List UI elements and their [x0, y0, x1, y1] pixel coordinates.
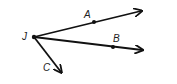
- label-a: A: [83, 9, 91, 20]
- rays-diagram: J A B C: [0, 0, 177, 84]
- point-a: [92, 20, 96, 24]
- vertex-point-j: [32, 35, 36, 39]
- label-j: J: [21, 31, 28, 42]
- label-c: C: [43, 62, 51, 73]
- ray-jb: [34, 37, 142, 50]
- label-b: B: [113, 33, 120, 44]
- point-b: [111, 45, 115, 49]
